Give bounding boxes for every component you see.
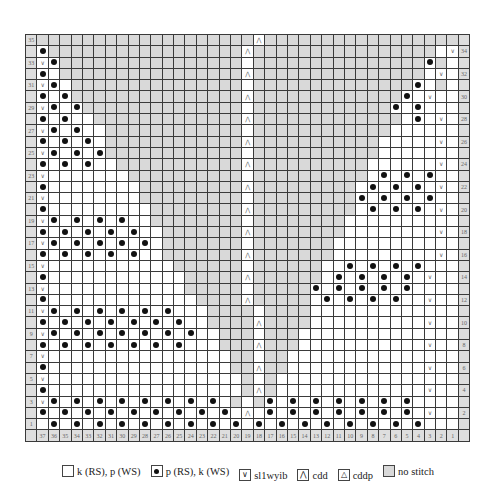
column-number: 27 [151,430,162,441]
knit-cell [117,373,128,384]
row-number-right [458,102,469,113]
knit-cell [117,249,128,260]
knit-cell [424,373,435,384]
cdd-icon: ⋀ [242,204,253,215]
knit-cell [390,249,401,260]
purl-dot-icon [105,227,116,238]
knit-cell [139,283,150,294]
slip-stitch-icon: ∨ [424,91,435,102]
knit-cell [94,272,105,283]
no-stitch-cell [231,249,242,260]
knit-cell [151,227,162,238]
knit-cell [105,181,116,192]
no-stitch-cell [265,35,276,46]
knit-cell [276,396,287,407]
no-stitch-cell [139,57,150,68]
knit-cell [401,340,412,351]
knit-cell [48,373,59,384]
cdd-swatch-icon: ⋀ [297,469,309,481]
knit-cell [151,294,162,305]
purl-dot-icon [413,80,424,91]
no-stitch-cell [253,396,264,407]
no-stitch-cell [139,170,150,181]
knit-cell [379,294,390,305]
no-stitch-cell [413,68,424,79]
knit-cell [436,328,447,339]
knit-cell [219,373,230,384]
knit-cell [71,272,82,283]
row-number-left [26,272,37,283]
no-stitch-cell [367,125,378,136]
no-stitch-cell [208,317,219,328]
knit-cell [367,227,378,238]
purl-dot-icon [367,419,378,430]
cdd-icon: ⋀ [242,159,253,170]
knit-cell [139,204,150,215]
no-stitch-cell [413,57,424,68]
no-stitch-cell [322,125,333,136]
chart-row: ⋀∨2 [26,407,470,418]
purl-dot-icon [424,193,435,204]
column-number: 25 [174,430,185,441]
purl-dot-icon [151,317,162,328]
knit-cell [82,294,93,305]
knit-cell [94,260,105,271]
knit-cell [60,204,71,215]
no-stitch-cell [356,159,367,170]
knit-cell [322,396,333,407]
no-stitch-cell [310,159,321,170]
knit-cell [322,317,333,328]
knit-cell [151,385,162,396]
legend-item-cddp: △cddp [338,469,373,481]
knit-cell [333,385,344,396]
knit-cell [162,260,173,271]
knit-cell [128,215,139,226]
knit-cell [231,385,242,396]
knit-cell [117,170,128,181]
no-stitch-cell [276,147,287,158]
knit-cell [401,306,412,317]
knit-cell [151,249,162,260]
no-stitch-cell [344,147,355,158]
knit-cell [208,328,219,339]
knit-cell [344,407,355,418]
no-stitch-cell [219,260,230,271]
no-stitch-cell [162,159,173,170]
row-number-right: 2 [458,407,469,418]
no-stitch-cell [117,102,128,113]
purl-dot-icon [82,317,93,328]
knit-cell [424,181,435,192]
knit-cell [322,283,333,294]
cdd-icon: ⋀ [253,362,264,373]
knit-cell [356,227,367,238]
row-number-right: 20 [458,204,469,215]
purl-dot-icon [60,136,71,147]
purl-dot-icon [356,272,367,283]
no-stitch-cell [253,181,264,192]
no-stitch-cell [174,204,185,215]
knit-cell [71,294,82,305]
no-stitch-cell [253,102,264,113]
no-stitch-cell [424,46,435,57]
purl-dot-icon [60,227,71,238]
knit-cell [390,147,401,158]
knit-cell [344,351,355,362]
knit-cell [242,125,253,136]
chart-row: 7∨ [26,351,470,362]
purl-dot-icon [367,260,378,271]
cdd-icon: ⋀ [242,227,253,238]
no-stitch-cell [299,68,310,79]
no-stitch-cell [253,204,264,215]
purl-dot-icon [162,419,173,430]
no-stitch-cell [174,46,185,57]
no-stitch-cell [390,57,401,68]
no-stitch-cell [196,102,207,113]
purl-dot-icon [390,419,401,430]
column-number: 28 [139,430,150,441]
knit-cell [71,136,82,147]
knit-cell [185,362,196,373]
knit-cell [82,283,93,294]
knit-cell [82,385,93,396]
knit-cell [413,193,424,204]
slip-stitch-icon: ∨ [37,306,48,317]
